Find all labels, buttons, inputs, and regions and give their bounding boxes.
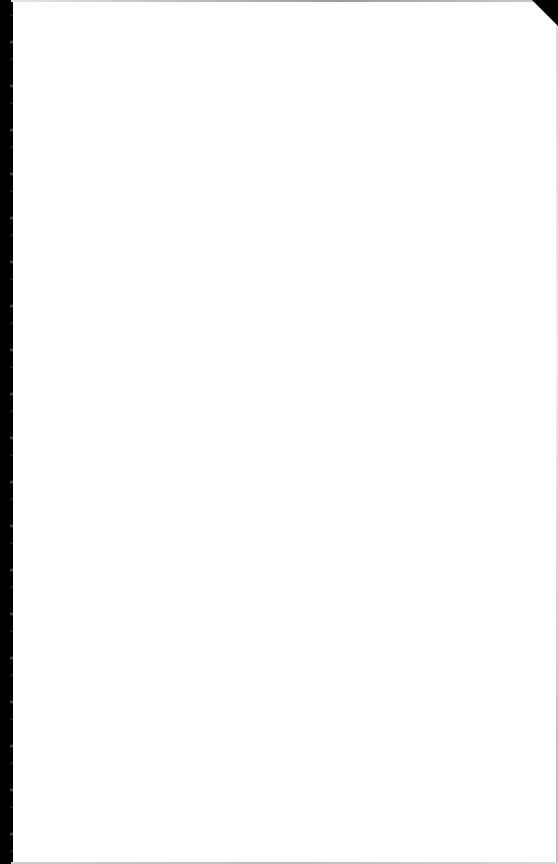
scan-top-edge bbox=[11, 0, 558, 2]
scan-left-edge-shadow bbox=[0, 0, 11, 864]
page-body bbox=[40, 40, 518, 824]
corner-fold-icon bbox=[532, 0, 558, 26]
scanned-page bbox=[0, 0, 558, 864]
